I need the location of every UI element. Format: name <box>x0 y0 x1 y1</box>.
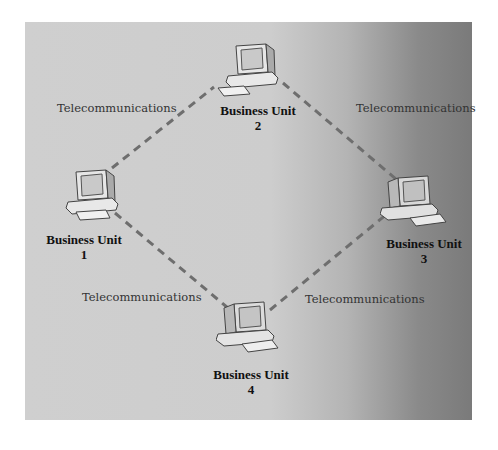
link-label-1-4: Telecommunications <box>82 290 202 304</box>
unit-1-name: Business Unit <box>29 232 139 247</box>
computer-icon-unit-3 <box>380 174 450 232</box>
unit-3-number: 3 <box>369 251 479 266</box>
link-1-2 <box>112 87 214 168</box>
node-label-unit-4: Business Unit 4 <box>196 367 306 397</box>
unit-2-name: Business Unit <box>203 103 313 118</box>
computer-icon-unit-1 <box>54 168 124 226</box>
link-label-1-2: Telecommunications <box>57 101 177 115</box>
unit-3-name: Business Unit <box>369 236 479 251</box>
unit-2-number: 2 <box>203 118 313 133</box>
unit-4-number: 4 <box>196 382 306 397</box>
unit-1-number: 1 <box>29 247 139 262</box>
link-label-2-3: Telecommunications <box>356 101 476 115</box>
unit-4-name: Business Unit <box>196 367 306 382</box>
computer-icon-unit-2 <box>214 42 284 100</box>
node-label-unit-2: Business Unit 2 <box>203 103 313 133</box>
link-label-4-3: Telecommunications <box>305 292 425 306</box>
node-label-unit-1: Business Unit 1 <box>29 232 139 262</box>
node-label-unit-3: Business Unit 3 <box>369 236 479 266</box>
computer-icon-unit-4 <box>216 300 286 358</box>
